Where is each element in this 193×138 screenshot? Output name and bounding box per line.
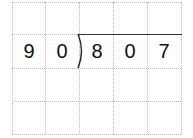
grid-line [12, 101, 181, 102]
grid-line [12, 2, 181, 3]
dividend-digit-3: 7 [147, 35, 181, 68]
grid-line [181, 2, 182, 134]
divisor-digit-1: 9 [12, 35, 46, 68]
grid-line [12, 134, 181, 135]
division-bar [79, 34, 182, 35]
division-bracket-icon [72, 33, 86, 69]
dividend-digit-2: 0 [113, 35, 147, 68]
grid-line [12, 68, 181, 69]
grid-paper [12, 2, 181, 134]
